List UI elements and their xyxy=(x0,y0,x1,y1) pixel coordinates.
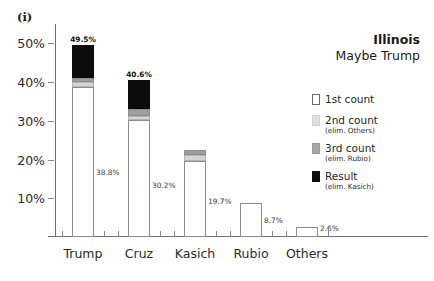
chart-legend: 1st count2nd count(elim. Others)3rd coun… xyxy=(312,93,430,198)
bar-trump: 49.5%38.8% xyxy=(72,24,94,237)
legend-label-wrap: 3rd count(elim. Rubio) xyxy=(325,142,430,163)
bar-value-label-rubio: 8.7% xyxy=(264,216,283,225)
bar-top-label-trump: 49.5% xyxy=(70,35,96,44)
bar-value-label-kasich: 19.7% xyxy=(208,197,231,206)
y-tick-label: 20% xyxy=(17,152,45,167)
bar-value-label-trump: 38.8% xyxy=(96,168,119,177)
y-tick xyxy=(48,198,54,199)
y-axis xyxy=(55,24,56,237)
bar-value-label-others: 2.6% xyxy=(320,224,339,233)
x-tick xyxy=(160,231,161,237)
y-tick-label: 50% xyxy=(17,36,45,51)
bar-segment-1st-count xyxy=(184,161,206,237)
legend-item-2nd-count: 2nd count(elim. Others) xyxy=(312,114,430,135)
legend-swatch-icon xyxy=(312,171,320,182)
bar-segment-2nd-count xyxy=(184,155,206,161)
chart-title: Illinois xyxy=(373,32,420,47)
legend-label-wrap: 1st count xyxy=(325,93,430,105)
x-tick-label-kasich: Kasich xyxy=(175,246,215,261)
plot-area: 50%40%30%20%10% TrumpCruzKasichRubioOthe… xyxy=(55,24,335,237)
x-axis xyxy=(48,236,428,237)
bar-rubio: 8.7% xyxy=(240,24,262,237)
x-tick xyxy=(174,231,175,237)
x-tick xyxy=(272,231,273,237)
bar-value-label-cruz: 30.2% xyxy=(152,181,175,190)
legend-item-result: Result(elim. Kasich) xyxy=(312,170,430,191)
legend-label: 2nd count xyxy=(325,114,430,126)
x-tick-label-rubio: Rubio xyxy=(233,246,268,261)
bar-segment-3rd-count xyxy=(184,150,206,154)
y-tick xyxy=(48,82,54,83)
chart-subtitle: Maybe Trump xyxy=(336,48,420,63)
bar-cruz: 40.6%30.2% xyxy=(128,24,150,237)
bar-top-label-cruz: 40.6% xyxy=(126,70,152,79)
legend-label-wrap: 2nd count(elim. Others) xyxy=(325,114,430,135)
bar-segment-2nd-count xyxy=(128,116,150,120)
y-tick-label: 40% xyxy=(17,75,45,90)
x-tick xyxy=(230,231,231,237)
legend-label: 1st count xyxy=(325,93,430,105)
bar-segment-result xyxy=(128,80,150,109)
legend-swatch-icon xyxy=(312,143,320,154)
legend-swatch-icon xyxy=(312,115,320,126)
y-tick xyxy=(48,160,54,161)
x-tick xyxy=(286,231,287,237)
legend-item-1st-count: 1st count xyxy=(312,93,430,107)
legend-swatch-icon xyxy=(312,94,320,105)
legend-label: 3rd count xyxy=(325,142,430,154)
bar-kasich: 19.7% xyxy=(184,24,206,237)
bar-segment-1st-count xyxy=(296,227,318,237)
x-tick-label-trump: Trump xyxy=(64,246,103,261)
x-tick xyxy=(62,231,63,237)
x-tick xyxy=(104,231,105,237)
legend-sublabel: (elim. Rubio) xyxy=(325,154,430,163)
bar-segment-1st-count xyxy=(240,203,262,237)
x-tick-label-cruz: Cruz xyxy=(125,246,153,261)
legend-item-3rd-count: 3rd count(elim. Rubio) xyxy=(312,142,430,163)
bar-segment-3rd-count xyxy=(128,109,150,116)
legend-sublabel: (elim. Others) xyxy=(325,126,430,135)
bar-segment-1st-count xyxy=(128,120,150,237)
y-tick-label: 10% xyxy=(17,191,45,206)
chart-figure: (i) Illinois Maybe Trump 50%40%30%20%10%… xyxy=(0,0,434,281)
bar-segment-1st-count xyxy=(72,87,94,237)
bar-segment-result xyxy=(72,45,94,78)
x-tick xyxy=(118,231,119,237)
y-tick xyxy=(48,43,54,44)
panel-marker: (i) xyxy=(17,10,32,24)
x-tick-label-others: Others xyxy=(286,246,328,261)
legend-sublabel: (elim. Kasich) xyxy=(325,182,430,191)
y-tick-label: 30% xyxy=(17,113,45,128)
bar-segment-2nd-count xyxy=(72,82,94,87)
legend-label-wrap: Result(elim. Kasich) xyxy=(325,170,430,191)
x-tick xyxy=(216,231,217,237)
legend-label: Result xyxy=(325,170,430,182)
bar-segment-3rd-count xyxy=(72,78,94,82)
y-tick xyxy=(48,121,54,122)
